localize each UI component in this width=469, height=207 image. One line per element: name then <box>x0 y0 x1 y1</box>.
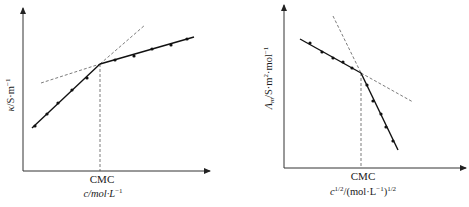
extrapolation-dashed-line <box>361 73 413 102</box>
extrapolation-dashed-line <box>41 64 100 83</box>
x-axis-label: c/mol·L−1 <box>83 187 123 199</box>
y-axis-label: κ/S·m−1 <box>4 78 16 111</box>
y-axis-label: Λm/S·m2·mol−1 <box>262 46 276 110</box>
cmc-label: CMC <box>351 170 375 182</box>
cmc-label: CMC <box>90 173 114 185</box>
figure-canvas: CMC c/mol·L−1 κ/S·m−1 CMC c1/2/(mol·L−1)… <box>0 0 469 207</box>
left-chart: CMC c/mol·L−1 κ/S·m−1 <box>4 8 210 199</box>
fit-line-below-cmc <box>32 64 100 128</box>
x-axis-label: c1/2/(mol·L−1)1/2 <box>330 185 397 198</box>
right-chart: CMC c1/2/(mol·L−1)1/2 Λm/S·m2·mol−1 <box>262 5 466 198</box>
data-points <box>33 37 188 127</box>
data-points <box>308 41 394 142</box>
